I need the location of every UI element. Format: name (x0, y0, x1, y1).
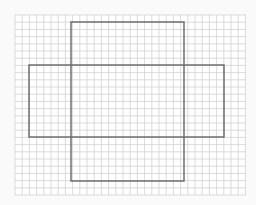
grid-paper-diagram (0, 0, 256, 205)
